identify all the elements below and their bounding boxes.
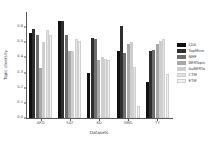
x-tick-mark <box>128 119 129 121</box>
legend-swatch <box>177 55 186 59</box>
bar <box>137 106 140 118</box>
x-tick-label: SMG <box>124 121 133 125</box>
x-tick-label: TY <box>155 121 160 125</box>
legend: LDATopMineNMFBERTopicAuBERTaCTMETM <box>177 42 217 84</box>
y-axis-label: Topic diversity <box>4 50 8 80</box>
topic-diversity-bar-chart: Topic diversity 0.00.10.20.30.40.50.6 AF… <box>0 0 218 143</box>
y-tick-mark <box>24 72 26 73</box>
legend-label: TopMine <box>189 49 204 53</box>
legend-label: NMF <box>189 55 197 59</box>
legend-label: ETM <box>189 79 197 83</box>
legend-swatch <box>177 49 186 53</box>
legend-label: CTM <box>189 73 197 77</box>
legend-swatch <box>177 61 186 65</box>
bar-group <box>117 12 140 118</box>
bar <box>166 74 169 118</box>
legend-label: AuBERTa <box>189 67 205 71</box>
y-tick-mark <box>24 87 26 88</box>
bar-group <box>29 12 52 118</box>
bar-group <box>87 12 110 118</box>
legend-swatch <box>177 73 186 77</box>
legend-label: BERTopic <box>189 61 206 65</box>
x-tick-label: AFD <box>37 121 45 125</box>
x-tick-mark <box>157 119 158 121</box>
legend-swatch <box>177 43 186 47</box>
legend-swatch <box>177 79 186 83</box>
legend-item[interactable]: ETM <box>177 78 217 84</box>
plot-area: 0.00.10.20.30.40.50.6 <box>26 12 172 118</box>
bar-group <box>58 12 81 118</box>
legend-swatch <box>177 67 186 71</box>
bar <box>78 41 81 118</box>
x-tick-mark <box>99 119 100 121</box>
y-tick-mark <box>24 118 26 119</box>
x-tick-mark <box>41 119 42 121</box>
x-tick-label: SAT <box>66 121 73 125</box>
bar <box>49 35 52 118</box>
y-tick-mark <box>24 57 26 58</box>
bar <box>107 60 110 118</box>
y-tick-mark <box>24 102 26 103</box>
bar-group <box>146 12 169 118</box>
legend-label: LDA <box>189 43 197 47</box>
x-axis-label: Datasets <box>90 131 109 135</box>
y-tick-mark <box>24 27 26 28</box>
x-tick-mark <box>70 119 71 121</box>
y-tick-mark <box>24 42 26 43</box>
x-tick-label: KU <box>96 121 101 125</box>
